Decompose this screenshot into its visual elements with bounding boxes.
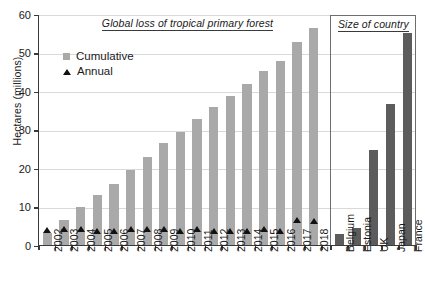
x-label-text: 2011 [202, 229, 214, 252]
bar-2015[interactable] [259, 71, 268, 245]
bar-slot[interactable] [139, 15, 156, 245]
x-label: 2013 [222, 252, 239, 302]
chart-root: Hectares (millions) 0102030405060 Global… [0, 0, 425, 302]
x-label-text: 2015 [268, 229, 280, 252]
bar-2002[interactable] [43, 233, 52, 245]
bar-slot[interactable] [205, 15, 222, 245]
bar-slot[interactable] [289, 15, 306, 245]
bar-slot[interactable] [305, 15, 322, 245]
bar-slot[interactable] [365, 16, 382, 245]
bar-france[interactable] [403, 33, 412, 245]
legend: CumulativeAnnual [63, 49, 134, 79]
x-label: 2009 [155, 252, 172, 302]
legend-label: Cumulative [76, 49, 134, 64]
x-label-text: 2013 [235, 229, 247, 252]
annual-marker-2017[interactable] [293, 217, 301, 223]
annual-marker-2002[interactable] [43, 227, 51, 233]
bar-slot[interactable] [172, 15, 189, 245]
bar-2013[interactable] [226, 96, 235, 246]
x-label-text: 2012 [218, 229, 230, 252]
x-label-text: Estonia [361, 217, 373, 252]
legend-square-icon [63, 53, 70, 60]
x-label-text: Japan [395, 223, 407, 252]
legend-triangle-icon [63, 69, 71, 75]
country-bars [331, 16, 416, 245]
x-label-text: 2016 [285, 229, 297, 252]
y-tick-label: 0 [25, 239, 31, 253]
x-label-text: 2008 [152, 229, 164, 252]
bar-belgium[interactable] [335, 234, 344, 245]
x-label: 2016 [272, 252, 289, 302]
x-label-text: 2004 [85, 229, 97, 252]
x-label: Japan [382, 252, 399, 302]
bar-2014[interactable] [242, 84, 251, 245]
bar-slot[interactable] [272, 15, 289, 245]
x-label-text: 2005 [102, 229, 114, 252]
x-label-text: 2018 [318, 229, 330, 252]
y-tick-label: 30 [19, 123, 31, 137]
x-label: 2015 [255, 252, 272, 302]
bar-slot[interactable] [189, 15, 206, 245]
x-label-text: 2009 [168, 229, 180, 252]
plot-area: 0102030405060 Global loss of tropical pr… [38, 15, 416, 246]
bar-2017[interactable] [292, 42, 301, 245]
bar-2016[interactable] [276, 61, 285, 245]
bar-slot[interactable] [382, 16, 399, 245]
bar-2012[interactable] [209, 107, 218, 245]
x-label: UK [365, 252, 382, 302]
x-label: 2014 [239, 252, 256, 302]
x-label-text: 2010 [185, 229, 197, 252]
x-label: 2017 [289, 252, 306, 302]
x-label-text: France [412, 219, 424, 252]
y-tick-label: 40 [19, 85, 31, 99]
x-label: 2004 [72, 252, 89, 302]
x-label: 2010 [172, 252, 189, 302]
x-label: 2012 [205, 252, 222, 302]
y-tick-label: 60 [19, 8, 31, 22]
annual-marker-2018[interactable] [310, 218, 318, 224]
bar-slot[interactable] [155, 15, 172, 245]
panel-country: Size of country BelgiumEstoniaUKJapanFra… [330, 15, 416, 245]
x-label: 2011 [189, 252, 206, 302]
bar-japan[interactable] [386, 104, 395, 245]
x-label: Estonia [348, 252, 365, 302]
bar-slot[interactable] [255, 15, 272, 245]
x-label-text: 2014 [252, 229, 264, 252]
x-label: 2006 [106, 252, 123, 302]
legend-item-annual[interactable]: Annual [63, 64, 134, 79]
x-label-text: 2006 [118, 229, 130, 252]
x-label-text: 2002 [52, 229, 64, 252]
y-tick-label: 50 [19, 46, 31, 60]
legend-label: Annual [77, 64, 113, 79]
x-label: 2018 [305, 252, 322, 302]
x-label-text: UK [378, 237, 390, 252]
x-label-text: 2003 [68, 229, 80, 252]
x-label-text: 2017 [301, 229, 313, 252]
y-tick-label: 10 [19, 200, 31, 214]
country-xlabels: BelgiumEstoniaUKJapanFrance [331, 252, 416, 302]
bar-slot[interactable] [222, 15, 239, 245]
x-label: 2007 [122, 252, 139, 302]
x-label-text: Belgium [344, 214, 356, 252]
x-label: Belgium [331, 252, 348, 302]
x-label: 2005 [89, 252, 106, 302]
bar-slot[interactable] [348, 16, 365, 245]
legend-item-cumulative[interactable]: Cumulative [63, 49, 134, 64]
bar-slot[interactable] [239, 15, 256, 245]
x-label: 2008 [139, 252, 156, 302]
x-label: 2002 [39, 252, 56, 302]
bar-slot[interactable] [331, 16, 348, 245]
x-label: 2003 [56, 252, 73, 302]
bar-2018[interactable] [309, 28, 318, 245]
bar-slot[interactable] [399, 16, 416, 245]
bar-slot[interactable] [39, 15, 56, 245]
x-label: France [399, 252, 416, 302]
y-tick-label: 20 [19, 162, 31, 176]
x-label-text: 2007 [135, 229, 147, 252]
forest-xlabels: 2002200320042005200620072008200920102011… [39, 252, 322, 302]
